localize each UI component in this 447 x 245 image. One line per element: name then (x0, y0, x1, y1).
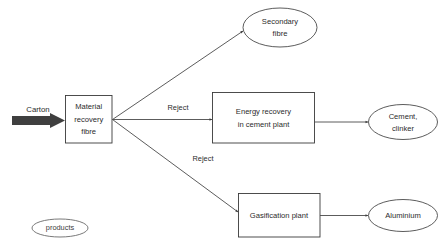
carton-input-label: Carton (26, 105, 49, 114)
node-energy-recovery[interactable]: Energy recovery in cement plant (213, 93, 315, 144)
edge-label-reject-lower: Reject (193, 154, 214, 163)
secondary-fibre-label-line2: fibre (273, 29, 288, 38)
edge-label-reject-upper: Reject (168, 103, 189, 112)
cement-clinker-label-line2: clinker (392, 124, 414, 133)
carton-thick-arrow-icon (12, 113, 65, 128)
node-aluminium[interactable]: Aluminium (369, 200, 438, 232)
carton-input-group: Carton (12, 105, 65, 128)
energy-recovery-label-line2: in cement plant (238, 120, 290, 129)
aluminium-label: Aluminium (385, 211, 420, 220)
node-secondary-fibre[interactable]: Secondary fibre (243, 8, 317, 47)
legend-products: products (32, 219, 88, 237)
legend-products-label: products (46, 223, 75, 232)
energy-recovery-box[interactable] (213, 93, 315, 144)
node-material-recovery-fibre[interactable]: Material recovery fibre (66, 96, 113, 144)
node-gasification-plant[interactable]: Gasification plant (239, 194, 321, 238)
cement-clinker-ellipse[interactable] (369, 105, 438, 140)
secondary-fibre-label-line1: Secondary (262, 17, 299, 26)
diagram-canvas: Carton Material recovery fibre Reject Re… (0, 0, 447, 245)
node-cement-clinker[interactable]: Cement, clinker (369, 105, 438, 140)
secondary-fibre-ellipse[interactable] (243, 8, 317, 47)
material-recovery-fibre-label-line1: Material (75, 102, 102, 111)
material-recovery-fibre-label-line2: recovery (74, 115, 103, 124)
gasification-plant-label-line1: Gasification plant (250, 211, 309, 220)
material-recovery-fibre-label-line3: fibre (81, 127, 96, 136)
cement-clinker-label-line1: Cement, (389, 112, 418, 121)
energy-recovery-label-line1: Energy recovery (236, 107, 291, 116)
flow-diagram: Carton Material recovery fibre Reject Re… (0, 0, 447, 245)
